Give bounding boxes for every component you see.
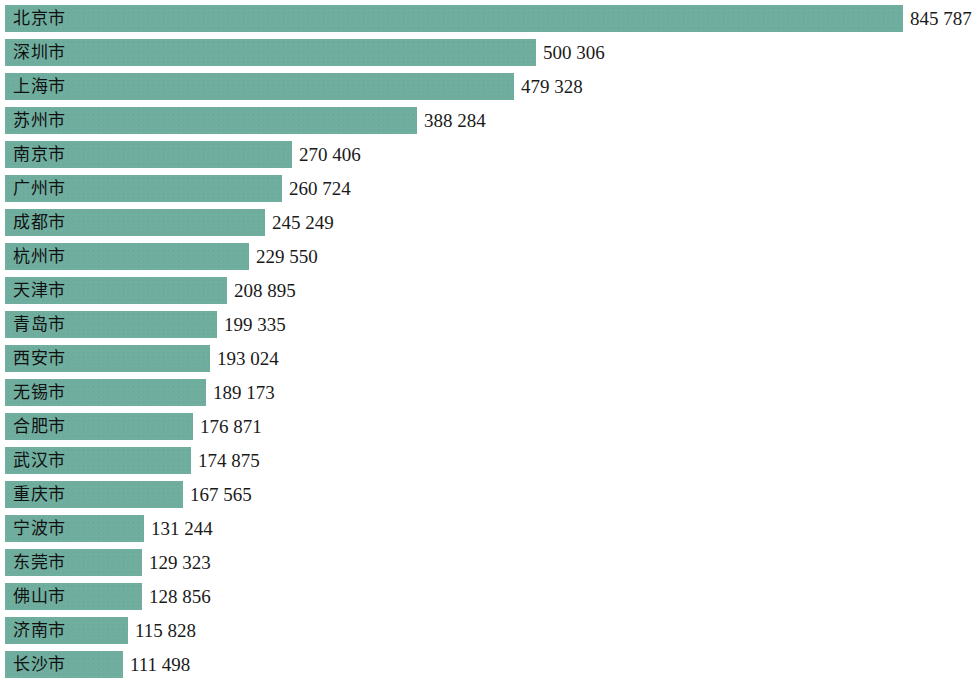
- bar-row: 济南市115 828: [0, 617, 977, 644]
- value-label: 260 724: [289, 175, 351, 202]
- bar-row: 武汉市174 875: [0, 447, 977, 474]
- category-label: 济南市: [13, 617, 66, 644]
- category-label: 合肥市: [13, 413, 66, 440]
- bar: [5, 39, 536, 66]
- bar-row: 合肥市176 871: [0, 413, 977, 440]
- value-label: 500 306: [543, 39, 605, 66]
- horizontal-bar-chart: 北京市845 787深圳市500 306上海市479 328苏州市388 284…: [0, 0, 977, 690]
- category-label: 天津市: [13, 277, 66, 304]
- bar-row: 无锡市189 173: [0, 379, 977, 406]
- category-label: 南京市: [13, 141, 66, 168]
- value-label: 388 284: [424, 107, 486, 134]
- bar-row: 重庆市167 565: [0, 481, 977, 508]
- category-label: 长沙市: [13, 651, 66, 678]
- value-label: 479 328: [521, 73, 583, 100]
- category-label: 广州市: [13, 175, 66, 202]
- category-label: 无锡市: [13, 379, 66, 406]
- bar-row: 深圳市500 306: [0, 39, 977, 66]
- bar-row: 成都市245 249: [0, 209, 977, 236]
- value-label: 229 550: [256, 243, 318, 270]
- bar-row: 长沙市111 498: [0, 651, 977, 678]
- bar-row: 北京市845 787: [0, 5, 977, 32]
- bar-row: 佛山市128 856: [0, 583, 977, 610]
- bar-row: 天津市208 895: [0, 277, 977, 304]
- category-label: 东莞市: [13, 549, 66, 576]
- value-label: 189 173: [213, 379, 275, 406]
- bar-row: 南京市270 406: [0, 141, 977, 168]
- category-label: 苏州市: [13, 107, 66, 134]
- bar-row: 上海市479 328: [0, 73, 977, 100]
- category-label: 佛山市: [13, 583, 66, 610]
- category-label: 杭州市: [13, 243, 66, 270]
- value-label: 176 871: [200, 413, 262, 440]
- value-label: 174 875: [198, 447, 260, 474]
- bar-row: 西安市193 024: [0, 345, 977, 372]
- bar-row: 宁波市131 244: [0, 515, 977, 542]
- value-label: 111 498: [130, 651, 190, 678]
- bar-row: 青岛市199 335: [0, 311, 977, 338]
- value-label: 131 244: [151, 515, 213, 542]
- category-label: 北京市: [13, 5, 66, 32]
- bar-row: 广州市260 724: [0, 175, 977, 202]
- value-label: 270 406: [299, 141, 361, 168]
- bar-row: 杭州市229 550: [0, 243, 977, 270]
- value-label: 128 856: [149, 583, 211, 610]
- category-label: 成都市: [13, 209, 66, 236]
- value-label: 167 565: [190, 481, 252, 508]
- category-label: 西安市: [13, 345, 66, 372]
- value-label: 199 335: [224, 311, 286, 338]
- value-label: 208 895: [234, 277, 296, 304]
- category-label: 武汉市: [13, 447, 66, 474]
- value-label: 115 828: [135, 617, 196, 644]
- value-label: 193 024: [217, 345, 279, 372]
- category-label: 深圳市: [13, 39, 66, 66]
- bar-row: 东莞市129 323: [0, 549, 977, 576]
- bar: [5, 107, 417, 134]
- bar-row: 苏州市388 284: [0, 107, 977, 134]
- value-label: 129 323: [149, 549, 211, 576]
- value-label: 245 249: [272, 209, 334, 236]
- category-label: 重庆市: [13, 481, 66, 508]
- value-label: 845 787: [910, 5, 972, 32]
- bar: [5, 5, 903, 32]
- category-label: 宁波市: [13, 515, 66, 542]
- bar: [5, 73, 514, 100]
- category-label: 上海市: [13, 73, 66, 100]
- category-label: 青岛市: [13, 311, 66, 338]
